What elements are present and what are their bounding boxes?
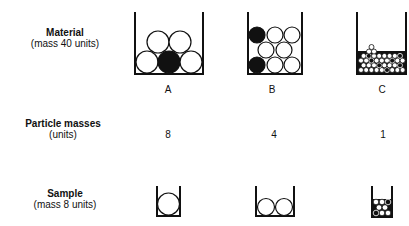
diagram-canvas	[0, 0, 409, 226]
sample-container-c	[372, 186, 392, 217]
sample-container-b	[256, 186, 294, 216]
material-container-c	[357, 12, 406, 74]
material-container-a	[135, 12, 203, 74]
material-container-b	[248, 12, 302, 74]
sample-container-a	[157, 186, 180, 216]
